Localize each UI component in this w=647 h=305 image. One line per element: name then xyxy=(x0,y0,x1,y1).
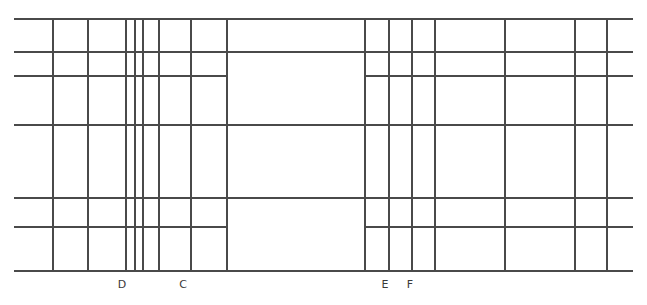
grid-diagram: DCEF xyxy=(0,0,647,305)
axis-label-c: C xyxy=(179,278,187,291)
axis-label-d: D xyxy=(118,278,126,291)
axis-label-f: F xyxy=(407,278,413,291)
diagram-background xyxy=(0,0,647,305)
diagram-canvas: DCEF xyxy=(0,0,647,305)
axis-label-e: E xyxy=(382,278,389,291)
